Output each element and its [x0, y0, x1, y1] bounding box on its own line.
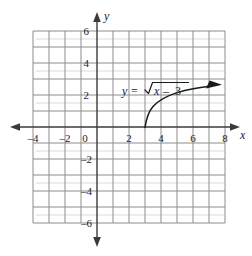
x-tick-label--2: –2: [59, 132, 71, 144]
x-tick-label-4: 4: [158, 132, 164, 144]
x-tick-label-6: 6: [190, 132, 196, 144]
curve-arrowhead: [206, 81, 222, 89]
y-tick-label-2: 2: [84, 89, 90, 101]
x-tick-label-2: 2: [126, 132, 132, 144]
graph-figure: x y 0 –4 –2 2 4 6 8 6 4 2 –2 –4 –6 y = x: [0, 0, 252, 256]
y-axis-bottom-arrow: [93, 237, 101, 247]
y-axis-label: y: [103, 9, 110, 23]
y-tick-label--2: –2: [80, 153, 92, 165]
x-axis-label: x: [239, 128, 246, 142]
y-axis-top-arrow: [93, 12, 101, 22]
x-axis-left-arrow: [10, 123, 20, 131]
y-tick-label-6: 6: [84, 25, 90, 37]
equation-equals: =: [131, 84, 138, 98]
x-tick-label-8: 8: [222, 132, 228, 144]
equation-radicand-operator: –: [162, 84, 170, 98]
equation-lhs: y: [121, 84, 128, 98]
coordinate-plane: x y 0 –4 –2 2 4 6 8 6 4 2 –2 –4 –6 y = x: [0, 0, 252, 256]
x-axis-right-arrow: [230, 123, 240, 131]
y-tick-label--6: –6: [80, 217, 93, 229]
equation-annotation: y = x – 3: [121, 83, 189, 99]
y-tick-label--4: –4: [80, 185, 93, 197]
origin-label: 0: [82, 132, 88, 144]
equation-radicand-constant: 3: [175, 84, 181, 98]
x-axis: [10, 123, 240, 131]
radical-sign-icon: [145, 83, 153, 94]
y-tick-label-4: 4: [84, 57, 90, 69]
x-tick-label--4: –4: [27, 132, 40, 144]
equation-radicand-variable: x: [153, 84, 160, 98]
